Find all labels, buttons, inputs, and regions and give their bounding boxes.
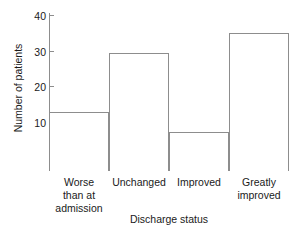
x-tick-label-worse-than-at-admission: Worse than at admission [49,176,109,215]
x-tick-line-1: Worse [49,176,109,189]
x-tick-label-greatly-improved: Greatly improved [229,176,289,202]
x-tick-line-2: improved [229,189,289,202]
x-tick-label-improved: Improved [169,176,229,189]
x-axis-title: Discharge status [49,213,289,225]
y-tick-label-30: 30 [24,47,46,57]
plot-area [49,13,289,171]
bar-greatly-improved [229,33,289,171]
y-tick-label-20: 20 [24,82,46,92]
x-tick-line-1: Improved [169,176,229,189]
x-tick-label-unchanged: Unchanged [109,176,169,189]
bar-improved [169,132,229,172]
y-tick-label-40: 40 [24,11,46,21]
bar-worse-than-at-admission [49,112,109,171]
x-tick-line-1: Greatly [229,176,289,189]
chart-figure: Number of patients 10 20 30 40 Worse tha… [0,0,297,232]
bar-unchanged [109,53,169,172]
x-tick-line-1: Unchanged [109,176,169,189]
y-tick-label-10: 10 [24,118,46,128]
x-tick-line-2: than at [49,189,109,202]
